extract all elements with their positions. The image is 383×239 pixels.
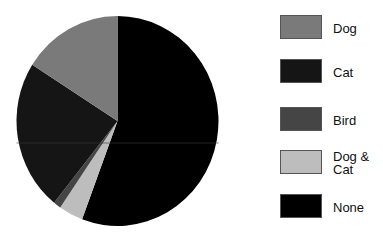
legend-label-bird: Bird: [333, 114, 356, 127]
legend-swatch-dog: [280, 15, 322, 39]
legend-swatch-dog-and-cat: [280, 150, 322, 174]
legend-label-none: None: [333, 201, 364, 214]
legend-label-dog-and-cat: Dog & Cat: [333, 150, 369, 176]
legend-item-cat: Cat: [280, 59, 383, 85]
legend-item-none: None: [280, 194, 383, 220]
legend-label-dog: Dog: [333, 22, 357, 35]
legend-label-cat: Cat: [333, 66, 353, 79]
legend-item-dog-and-cat: Dog & Cat: [280, 150, 383, 176]
legend: Dog Cat Bird Dog & Cat None: [280, 0, 383, 239]
legend-item-bird: Bird: [280, 107, 383, 133]
legend-item-dog: Dog: [280, 15, 383, 41]
legend-swatch-bird: [280, 107, 322, 131]
legend-swatch-cat: [280, 59, 322, 83]
pie-chart: [0, 0, 240, 239]
legend-swatch-none: [280, 194, 322, 218]
